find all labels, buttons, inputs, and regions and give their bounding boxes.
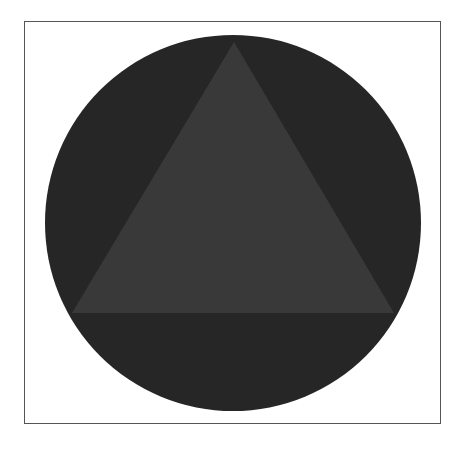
figure-canvas	[0, 0, 466, 450]
